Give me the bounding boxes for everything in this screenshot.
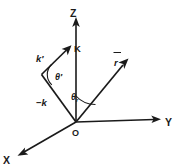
z-axis-label-text: Z <box>70 7 76 19</box>
r-vector-label-text: r <box>114 57 118 68</box>
y-axis-label-text: Y <box>165 116 172 128</box>
y-axis-label: Y <box>165 112 172 130</box>
minus-k-label: −k <box>36 92 47 110</box>
x-axis-label-text: X <box>3 154 10 166</box>
r-vector <box>76 59 129 123</box>
z-axis <box>72 17 80 122</box>
k-capital-label: K <box>74 38 81 56</box>
z-axis-label: Z <box>70 3 76 21</box>
x-axis-arrowhead <box>18 147 29 155</box>
origin-label-text: O <box>72 128 79 138</box>
k-prime-label-prime: ′ <box>41 53 43 64</box>
minus-k-label-text: −k <box>36 97 47 108</box>
y-axis <box>76 116 161 124</box>
k-capital-label-text: K <box>74 43 81 54</box>
x-axis-label: X <box>3 150 10 167</box>
vector-diagram-figure: Z Y X O K k′ −k r θ′ θr <box>0 0 176 167</box>
x-axis <box>18 122 77 156</box>
vector-diagram-canvas <box>0 0 176 167</box>
origin-label: O <box>72 122 79 140</box>
theta-prime-prime: ′ <box>60 72 62 82</box>
theta-prime-label: θ′ <box>55 66 62 84</box>
theta-r-label: θr <box>71 86 78 104</box>
theta-r-subscript: r <box>76 97 78 103</box>
r-vector-label: r <box>114 52 118 70</box>
k-prime-label: k′ <box>36 48 44 66</box>
